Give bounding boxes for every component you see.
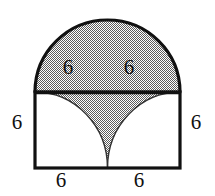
- dimension-label-bottom-right: 6: [128, 170, 150, 191]
- dimension-label-bottom-left: 6: [50, 170, 72, 191]
- geometry-figure: 6 6 6 6 6 6: [0, 0, 215, 196]
- dimension-label-upper-left: 6: [57, 57, 79, 78]
- dimension-label-right-side: 6: [185, 112, 207, 133]
- dimension-label-upper-right: 6: [118, 57, 140, 78]
- shaded-semicircle: [35, 20, 180, 92]
- geometry-diagram-svg: [0, 0, 215, 196]
- shaded-cusp-region: [35, 92, 180, 168]
- dimension-label-left-side: 6: [6, 112, 28, 133]
